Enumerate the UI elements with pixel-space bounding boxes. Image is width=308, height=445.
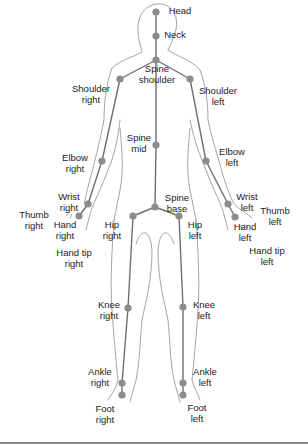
label-hip-right: Hip right	[103, 220, 121, 241]
label-thumb-left: Thumb left	[260, 206, 290, 227]
joint-knee-left	[179, 303, 186, 310]
label-foot-right: Foot right	[95, 404, 114, 425]
label-hip-left: Hip left	[188, 220, 202, 241]
label-knee-right: Knee right	[98, 300, 120, 321]
label-spine-mid: Spine mid	[127, 133, 151, 154]
label-shoulder-right: Shoulder right	[72, 84, 110, 105]
label-hand-tip-right: Hand tip right	[56, 248, 91, 269]
label-knee-left: Knee left	[193, 300, 215, 321]
label-spine-base: Spine base	[165, 193, 189, 214]
label-spine-shoulder: Spine shoulder	[139, 64, 175, 85]
joint-neck	[152, 32, 159, 39]
joint-shoulder-left	[186, 75, 193, 82]
label-shoulder-left: Shoulder left	[199, 86, 237, 107]
joint-elbow-left	[202, 157, 209, 164]
bone-spine-lower	[155, 145, 156, 207]
joint-wrist-left	[224, 200, 231, 207]
joint-hand-right	[75, 212, 82, 219]
bone-thigh-right	[128, 216, 133, 308]
joint-ankle-left	[179, 379, 186, 386]
label-thumb-right: Thumb right	[19, 210, 49, 231]
label-elbow-right: Elbow right	[62, 153, 88, 174]
joint-knee-right	[124, 304, 131, 311]
label-foot-left: Foot left	[187, 403, 206, 424]
joint-hip-right	[129, 212, 136, 219]
label-neck: Neck	[164, 30, 186, 41]
label-hand-left: Hand left	[234, 222, 257, 243]
joint-ankle-right	[118, 379, 125, 386]
bone-thigh-left	[179, 216, 183, 307]
bone-shin-right	[122, 308, 128, 383]
label-hand-right: Hand right	[54, 220, 77, 241]
joint-foot-right	[118, 391, 125, 398]
bone-forearm-right	[88, 161, 102, 204]
label-wrist-right: Wrist right	[58, 192, 79, 213]
joint-head	[152, 8, 159, 15]
label-ankle-right: Ankle right	[88, 367, 112, 388]
joint-elbow-right	[98, 157, 105, 164]
joint-hand-left	[231, 213, 238, 220]
label-ankle-left: Ankle left	[193, 367, 217, 388]
bottom-divider	[0, 442, 308, 444]
body-joints-diagram: Head Neck Shoulder right Spine shoulder …	[0, 0, 308, 445]
label-head: Head	[169, 6, 192, 17]
label-hand-tip-left: Hand tip left	[249, 246, 284, 267]
joint-spine-mid	[152, 141, 159, 148]
joint-foot-left	[179, 391, 186, 398]
joint-spine-base	[151, 203, 158, 210]
label-wrist-left: Wrist left	[236, 192, 257, 213]
joint-wrist-right	[84, 200, 91, 207]
label-elbow-left: Elbow left	[219, 147, 245, 168]
joint-shoulder-right	[116, 75, 123, 82]
